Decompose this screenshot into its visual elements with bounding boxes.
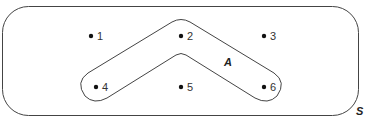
point-3: 3 xyxy=(262,30,276,42)
point-dot xyxy=(262,34,266,38)
point-dot xyxy=(179,34,183,38)
universal-set-label: S xyxy=(356,105,364,117)
point-4: 4 xyxy=(94,81,108,93)
point-dot xyxy=(179,85,183,89)
point-1: 1 xyxy=(89,30,103,42)
point-6: 6 xyxy=(262,81,276,93)
point-dot xyxy=(94,85,98,89)
point-label: 3 xyxy=(270,30,276,42)
point-5: 5 xyxy=(179,81,193,93)
point-label: 4 xyxy=(102,81,108,93)
point-dot xyxy=(262,85,266,89)
point-label: 6 xyxy=(270,81,276,93)
point-label: 2 xyxy=(187,30,193,42)
point-dot xyxy=(89,34,93,38)
point-label: 1 xyxy=(97,30,103,42)
point-label: 5 xyxy=(187,81,193,93)
point-2: 2 xyxy=(179,30,193,42)
universal-set-boundary xyxy=(3,7,359,116)
subset-a-label: A xyxy=(223,56,232,68)
venn-diagram: 1 2 3 4 5 6 A S xyxy=(0,0,368,123)
